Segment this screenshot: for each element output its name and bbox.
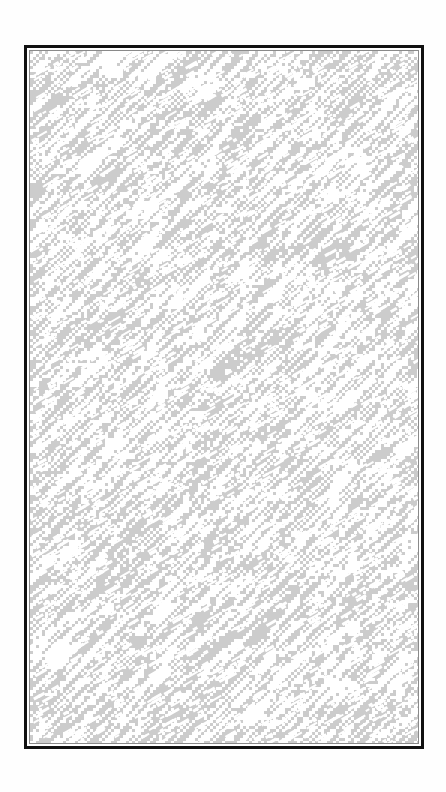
noise-texture-pattern: [30, 51, 418, 743]
outer-frame-border: [24, 45, 424, 749]
page: [0, 0, 446, 792]
inner-frame-border: [29, 50, 419, 744]
